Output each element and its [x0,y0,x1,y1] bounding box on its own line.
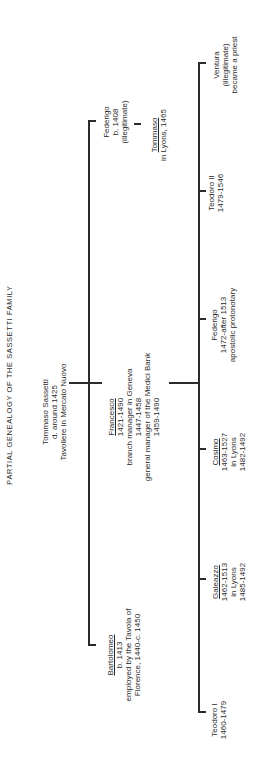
gen2-tick-galeazzo [198,578,206,580]
person-detail: b. 1408 [111,100,120,143]
person-teodoro-i: Teodoro I 1460-1479 [210,701,228,739]
federigo-to-tommaso-connector [134,123,141,125]
person-detail: in Lyons, 1465 [159,109,168,161]
person-detail: 1421-1490 [116,353,125,482]
person-detail: Florence, 1440-c. 1450 [133,609,142,702]
person-federigo-sr: Federigo b. 1408 (illegitimate) [102,100,129,143]
person-name: Teodoro I [210,701,219,739]
gen2-tick-teodoro-i [198,711,206,713]
person-detail: 1485-1492 [238,563,247,601]
gen1-tick-francesco [88,382,102,384]
person-detail: 1460-1479 [219,701,228,739]
person-name: Cosimo [211,433,220,471]
gen2-tick-teodoro-ii [198,190,206,192]
gen1-tick-bartolomeo [88,644,96,646]
root-person-tommaso-sassetti: Tommaso Sassetti d. around 1425 Tavolier… [41,364,68,461]
person-name: Federigo [210,288,219,362]
person-detail: apostolic protonotary [228,288,237,362]
root-connector [69,382,90,384]
gen2-tick-ventura [198,62,206,64]
person-detail: 1462-1513 [220,563,229,601]
person-federigo-jr: Federigo 1472-after 1513 apostolic proto… [210,288,237,362]
person-detail: 1472-after 1513 [219,288,228,362]
francesco-connector [169,382,199,384]
root-occupation: Tavoliere in Mercato Nuovo [59,364,68,461]
gen2-trunk-line [198,62,200,713]
person-name: Ventura [212,37,221,94]
gen1-tick-federigo [88,120,96,122]
person-cosimo: Cosimo 1463-1527 in Lyons 1482-1492 [211,433,247,471]
person-detail: branch manager in Geneva [125,353,134,482]
title-text: PARTIAL GENEALOGY OF THE SASSETTI FAMILY [5,285,14,484]
diagram-title: PARTIAL GENEALOGY OF THE SASSETTI FAMILY [5,285,14,484]
person-name: Teodoro II [207,174,216,212]
person-detail: in Lyons [229,433,238,471]
root-death: d. around 1425 [50,364,59,461]
person-name: Galeazzo [211,563,220,601]
person-detail: general manager of the Medici Bank [143,353,152,482]
person-detail: employed by the Tavola of [124,609,133,702]
person-detail: 1479-1546 [216,174,225,212]
person-galeazzo: Galeazzo 1462-1513 in Lyons 1485-1492 [211,563,247,601]
person-detail: in Lyons [229,563,238,601]
person-ventura: Ventura (illegitimate) became a priest [212,37,239,94]
person-name: Bartolomeo [106,609,115,702]
person-francesco: Francesco 1421-1490 branch manager in Ge… [107,353,161,482]
person-tommaso-jr: Tommaso in Lyons, 1465 [150,109,168,161]
person-detail: (illegitimate) [221,37,230,94]
person-detail: 1459-1490 [152,353,161,482]
person-detail: 1447-1458 [134,353,143,482]
gen2-tick-federigo [198,318,206,320]
person-name: Francesco [107,353,116,482]
person-detail: became a priest [230,37,239,94]
person-teodoro-ii: Teodoro II 1479-1546 [207,174,225,212]
gen2-tick-cosimo [198,448,206,450]
person-detail: 1482-1492 [238,433,247,471]
person-name: Tommaso [150,109,159,161]
person-detail: 1463-1527 [220,433,229,471]
person-detail: b. 1413 [115,609,124,702]
person-bartolomeo: Bartolomeo b. 1413 employed by the Tavol… [106,609,142,702]
root-name: Tommaso Sassetti [41,364,50,461]
person-name: Federigo [102,100,111,143]
person-detail: (illegitimate) [120,100,129,143]
